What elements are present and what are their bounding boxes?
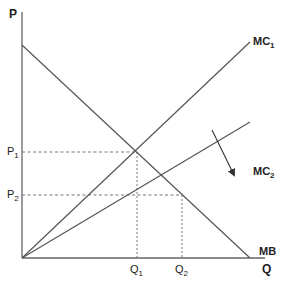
x-axis-label: Q	[262, 262, 271, 276]
shift-arrow	[212, 130, 234, 175]
y-axis-label: P	[9, 7, 17, 21]
p1-label: P1	[7, 145, 19, 160]
q2-label: Q2	[175, 263, 189, 278]
mc2-curve	[22, 122, 250, 258]
mc2-label: MC2	[253, 165, 275, 180]
mc1-label: MC1	[253, 35, 275, 50]
q1-label: Q1	[130, 263, 144, 278]
p2-label: P2	[7, 188, 19, 203]
economics-diagram: P Q MC1 MC2 MB P1 P2 Q1 Q2	[0, 0, 284, 283]
mb-label: MB	[259, 245, 276, 257]
